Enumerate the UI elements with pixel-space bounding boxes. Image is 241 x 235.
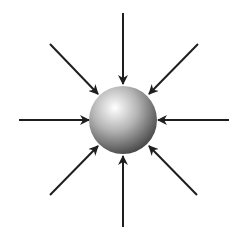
radial-field-diagram [0,0,241,235]
arrow-bottom-left [50,146,98,195]
arrow-top-left [50,44,98,94]
arrow-top-right [149,44,198,94]
arrow-bottom-right [149,146,197,195]
sphere [89,86,157,154]
